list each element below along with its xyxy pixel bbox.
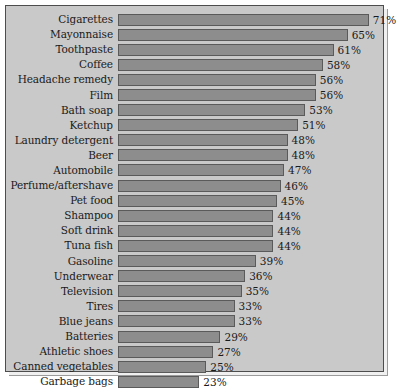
bar [118, 164, 284, 176]
bar-row: Headache remedy56% [6, 72, 383, 87]
bar-row: Canned vegetables25% [6, 359, 383, 374]
bar-row: Mayonnaise65% [6, 27, 383, 42]
bar-category-label: Gasoline [6, 256, 118, 267]
bar-track: 27% [118, 346, 383, 358]
bar-value-label: 36% [245, 271, 272, 282]
bar-category-label: Toothpaste [6, 44, 118, 55]
bar-category-label: Garbage bags [6, 376, 118, 387]
bar-category-label: Tuna fish [6, 240, 118, 251]
bar [118, 376, 199, 388]
bar-row: Automobile47% [6, 163, 383, 178]
bar-category-label: Soft drink [6, 225, 118, 236]
bar-value-label: 61% [334, 44, 361, 55]
bar-value-label: 58% [323, 59, 350, 70]
bar-row: Beer48% [6, 148, 383, 163]
bar-value-label: 56% [316, 74, 343, 85]
bar-track: 39% [118, 255, 383, 267]
chart-frame: Cigarettes71%Mayonnaise65%Toothpaste61%C… [5, 5, 384, 372]
bar-value-label: 65% [348, 29, 375, 40]
bar-row: Bath soap53% [6, 103, 383, 118]
bar-track: 46% [118, 180, 383, 192]
bar [118, 134, 288, 146]
bar-track: 29% [118, 331, 383, 343]
bar-track: 56% [118, 89, 383, 101]
bar-track: 44% [118, 240, 383, 252]
bar-value-label: 48% [288, 150, 315, 161]
bar-row: Blue jeans33% [6, 314, 383, 329]
bar [118, 74, 316, 86]
bar-category-label: Laundry detergent [6, 135, 118, 146]
bar-track: 65% [118, 29, 383, 41]
bar-row: Gasoline39% [6, 254, 383, 269]
bar-chart-plot-area: Cigarettes71%Mayonnaise65%Toothpaste61%C… [6, 6, 383, 371]
bar [118, 89, 316, 101]
bar-row: Garbage bags23% [6, 374, 383, 389]
bar-track: 58% [118, 59, 383, 71]
bar [118, 285, 242, 297]
bar-category-label: Coffee [6, 59, 118, 70]
bar-row: Ketchup51% [6, 118, 383, 133]
bar-row: Tires33% [6, 299, 383, 314]
bar-track: 71% [118, 14, 383, 26]
bar-track: 51% [118, 119, 383, 131]
bar-value-label: 44% [273, 225, 300, 236]
bar [118, 119, 298, 131]
bar-value-label: 25% [206, 361, 233, 372]
bar-value-label: 23% [199, 376, 226, 387]
bar-track: 45% [118, 195, 383, 207]
bar [118, 44, 334, 56]
bar-track: 61% [118, 44, 383, 56]
bar-value-label: 27% [213, 346, 240, 357]
bar-category-label: Pet food [6, 195, 118, 206]
bar-category-label: Television [6, 286, 118, 297]
bar-track: 33% [118, 300, 383, 312]
bar-value-label: 56% [316, 90, 343, 101]
bar-track: 35% [118, 285, 383, 297]
bar-value-label: 44% [273, 240, 300, 251]
bar-category-label: Mayonnaise [6, 29, 118, 40]
bar-value-label: 47% [284, 165, 311, 176]
bar-value-label: 45% [277, 195, 304, 206]
bar-category-label: Cigarettes [6, 14, 118, 25]
bar [118, 331, 220, 343]
bar-value-label: 33% [235, 301, 262, 312]
bar-value-label: 33% [235, 316, 262, 327]
bar-row: Batteries29% [6, 329, 383, 344]
bar-category-label: Perfume/aftershave [6, 180, 118, 191]
bar-row: Television35% [6, 284, 383, 299]
bar [118, 59, 323, 71]
bar [118, 270, 245, 282]
bar-row: Tuna fish44% [6, 238, 383, 253]
bar [118, 149, 288, 161]
bar-category-label: Athletic shoes [6, 346, 118, 357]
bar-track: 47% [118, 164, 383, 176]
bar-track: 36% [118, 270, 383, 282]
bar-row: Toothpaste61% [6, 42, 383, 57]
bar-category-label: Bath soap [6, 105, 118, 116]
bar [118, 210, 273, 222]
bar-category-label: Canned vegetables [6, 361, 118, 372]
bar-value-label: 44% [273, 210, 300, 221]
bar-track: 25% [118, 361, 383, 373]
bar [118, 180, 281, 192]
bar [118, 195, 277, 207]
bar-row: Laundry detergent48% [6, 133, 383, 148]
bar-category-label: Underwear [6, 271, 118, 282]
bar-track: 33% [118, 315, 383, 327]
bar-row: Shampoo44% [6, 208, 383, 223]
bar-track: 23% [118, 376, 383, 388]
bar [118, 14, 369, 26]
bar-value-label: 39% [256, 256, 283, 267]
bar-value-label: 29% [220, 331, 247, 342]
bar [118, 104, 305, 116]
bar-value-label: 48% [288, 135, 315, 146]
bar-track: 53% [118, 104, 383, 116]
bar-track: 44% [118, 225, 383, 237]
bar-track: 48% [118, 149, 383, 161]
bar-value-label: 71% [369, 14, 396, 25]
bar-value-label: 51% [298, 120, 325, 131]
bar-category-label: Beer [6, 150, 118, 161]
bar-category-label: Automobile [6, 165, 118, 176]
bar-value-label: 53% [305, 105, 332, 116]
bar-value-label: 46% [281, 180, 308, 191]
